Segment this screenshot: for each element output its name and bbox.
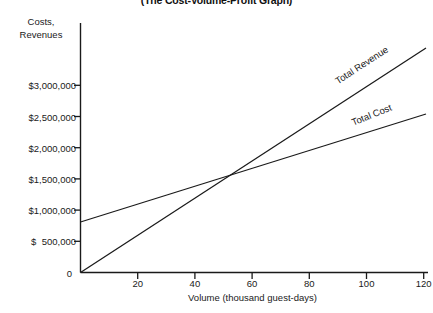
y-tick-label-2000000: $2,000,000 (28, 142, 76, 153)
y-tick-label-1000000: $1,000,000 (28, 205, 76, 216)
x-tick-label-60: 60 (247, 278, 258, 289)
y-tick-label-3000000: $3,000,000 (28, 80, 76, 91)
x-axis-title: Volume (thousand guest-days) (80, 292, 425, 303)
y-tick-label-500000: $ 500,000 (31, 236, 76, 247)
x-tick-label-100: 100 (359, 278, 375, 289)
y-tick-label-2500000: $2,500,000 (28, 111, 76, 122)
plot-area (0, 0, 433, 313)
x-tick-label-80: 80 (304, 278, 315, 289)
x-tick-label-120: 120 (416, 278, 432, 289)
total-revenue-line (81, 48, 427, 273)
cost-volume-profit-chart: (The Cost-Volume-Profit Graph) Costs, Re… (0, 0, 433, 313)
total-cost-line (81, 114, 427, 222)
y-tick-label-0: 0 (67, 267, 72, 278)
x-tick-label-40: 40 (190, 278, 201, 289)
x-tick-label-20: 20 (132, 278, 143, 289)
y-tick-label-1500000: $1,500,000 (28, 173, 76, 184)
